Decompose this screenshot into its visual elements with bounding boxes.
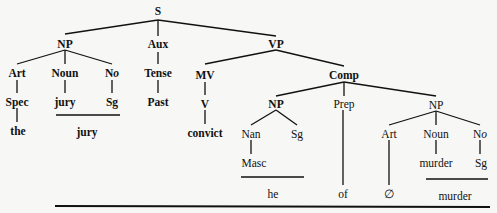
node-No-subject: No bbox=[105, 67, 119, 79]
node-Noun-prep: Noun bbox=[423, 128, 449, 140]
word-he: he bbox=[268, 188, 279, 200]
node-Comp: Comp bbox=[329, 69, 359, 82]
node-Masc: Masc bbox=[242, 157, 267, 169]
node-Art-subject: Art bbox=[8, 67, 25, 79]
node-MV: MV bbox=[195, 69, 215, 81]
word-the: the bbox=[10, 125, 25, 137]
word-jury: jury bbox=[75, 126, 97, 139]
word-convict: convict bbox=[187, 127, 222, 139]
node-Prep: Prep bbox=[333, 98, 354, 111]
syntax-tree-diagram: S NP Aux VP Art Noun No Tense MV Comp Sp… bbox=[0, 0, 497, 213]
node-NP-object: NP bbox=[268, 98, 283, 110]
node-murder-stem: murder bbox=[419, 157, 452, 169]
node-NP-subject: NP bbox=[57, 38, 72, 50]
node-VP: VP bbox=[268, 38, 283, 50]
node-NP-prep: NP bbox=[429, 99, 444, 111]
node-Past: Past bbox=[147, 96, 168, 108]
node-Sg-subject: Sg bbox=[106, 96, 118, 109]
node-Aux: Aux bbox=[148, 38, 169, 50]
node-S: S bbox=[155, 5, 161, 17]
node-Sg-prep: Sg bbox=[475, 157, 487, 170]
node-jury-stem: jury bbox=[53, 96, 75, 109]
word-of: of bbox=[338, 188, 348, 200]
node-Noun-subject: Noun bbox=[52, 67, 79, 79]
node-Nan: Nan bbox=[241, 128, 260, 140]
word-null-article: ∅ bbox=[384, 188, 394, 200]
sentence-baseline bbox=[55, 206, 490, 207]
node-No-prep: No bbox=[473, 128, 487, 140]
node-Tense: Tense bbox=[144, 67, 172, 79]
node-Sg-object: Sg bbox=[291, 128, 303, 141]
node-V: V bbox=[201, 98, 210, 110]
node-Art-prep: Art bbox=[381, 128, 397, 140]
word-murder: murder bbox=[438, 190, 471, 202]
node-Spec: Spec bbox=[6, 96, 29, 109]
